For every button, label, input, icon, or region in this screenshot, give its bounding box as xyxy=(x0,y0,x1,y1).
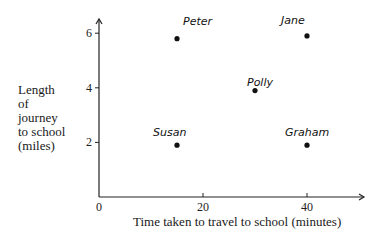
x-tick-label: 20 xyxy=(197,200,209,214)
x-axis-label: Time taken to travel to school (minutes) xyxy=(133,214,341,230)
data-point-graham: Graham xyxy=(285,126,329,148)
data-point-susan: Susan xyxy=(153,126,186,148)
y-label-line: journey xyxy=(18,111,88,125)
origin-label: 0 xyxy=(96,200,102,214)
point-label: Peter xyxy=(183,15,213,28)
y-label-line: of xyxy=(18,97,88,111)
data-point-peter: Peter xyxy=(174,15,213,42)
point-marker xyxy=(252,88,257,93)
point-marker xyxy=(304,143,309,148)
data-point-polly: Polly xyxy=(247,76,273,94)
x-tick-label: 40 xyxy=(301,200,313,214)
data-points: PeterJanePollySusanGraham xyxy=(153,14,329,148)
y-axis-label: Length of journey to school (miles) xyxy=(18,83,88,153)
y-label-line: Length xyxy=(18,83,88,97)
data-point-jane: Jane xyxy=(279,14,310,39)
point-marker xyxy=(174,143,179,148)
point-label: Polly xyxy=(247,76,273,89)
point-label: Susan xyxy=(153,126,186,139)
axis-ticks: 02040246 xyxy=(86,26,313,214)
point-marker xyxy=(304,33,309,38)
y-label-line: (miles) xyxy=(18,139,88,153)
point-label: Jane xyxy=(279,14,305,27)
y-label-line: to school xyxy=(18,125,88,139)
y-tick-label: 6 xyxy=(86,26,92,40)
point-label: Graham xyxy=(285,126,329,139)
point-marker xyxy=(174,36,179,41)
